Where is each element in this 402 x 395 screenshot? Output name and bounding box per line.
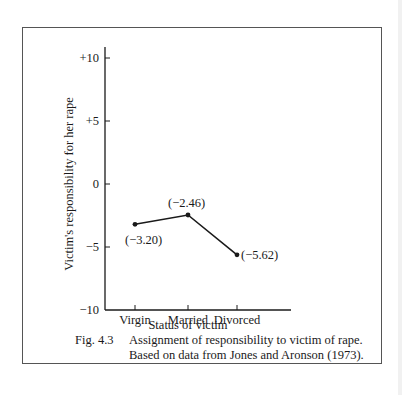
page-edge <box>398 0 402 395</box>
caption-line-2: Based on data from Jones and Aronson (19… <box>129 348 364 363</box>
x-axis-label: Status of victim <box>148 318 227 332</box>
data-point <box>235 252 240 257</box>
data-point <box>186 213 191 218</box>
y-tick-label: −5 <box>86 240 99 254</box>
y-tick-label: +10 <box>79 51 99 65</box>
data-label: (−2.46) <box>168 196 205 210</box>
data-label: (−5.62) <box>241 248 278 262</box>
y-axis-label: Victim's responsibility for her rape <box>62 97 76 271</box>
caption-line-1: Assignment of responsibility to victim o… <box>129 333 363 348</box>
x-tick-label: Virgin <box>119 313 151 327</box>
data-point <box>133 222 138 227</box>
y-tick-label: 0 <box>93 177 99 191</box>
figure-number: Fig. 4.3 <box>75 333 114 348</box>
y-tick-label: +5 <box>86 114 99 128</box>
y-tick-label: −10 <box>79 303 99 317</box>
data-label: (−3.20) <box>125 233 162 247</box>
